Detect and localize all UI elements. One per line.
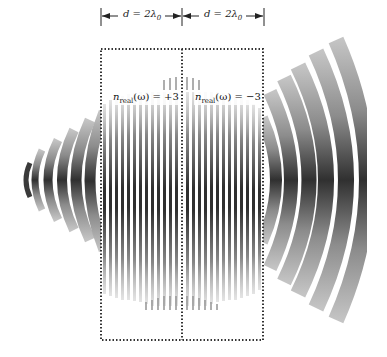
wave-field-figure bbox=[0, 0, 387, 357]
dimension-label-right: d = 2λ0 bbox=[202, 8, 244, 22]
region-label-positive-index: nreal(ω) = +3 bbox=[112, 91, 180, 105]
dimension-label-left: d = 2λ0 bbox=[121, 8, 163, 22]
incident-wavefronts bbox=[26, 112, 104, 250]
region-label-negative-index: nreal(ω) = −3 bbox=[194, 91, 262, 105]
transmitted-wavefronts bbox=[262, 0, 387, 357]
